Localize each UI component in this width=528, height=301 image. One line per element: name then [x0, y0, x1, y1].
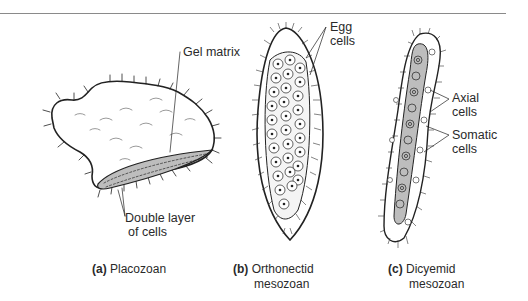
caption-a-letter: (a)	[92, 262, 107, 276]
caption-c-text: Dicyemid	[406, 262, 455, 276]
caption-b: (b) Orthonectid mesozoan	[233, 262, 314, 292]
caption-c-text-line2: mesozoan	[388, 277, 464, 292]
label-egg-line1: Egg	[330, 20, 352, 34]
label-axial-line1: Axial	[452, 91, 479, 105]
label-double-layer-line1: Double layer	[125, 211, 195, 225]
caption-a: (a) Placozoan	[92, 262, 166, 277]
caption-b-letter: (b)	[233, 262, 248, 276]
caption-b-text-line2: mesozoan	[233, 277, 314, 292]
caption-b-text: Orthonectid	[252, 262, 314, 276]
dicyemid-drawing	[378, 28, 449, 248]
caption-c: (c) Dicyemid mesozoan	[388, 262, 464, 292]
label-somatic-line1: Somatic	[452, 128, 497, 142]
caption-c-letter: (c)	[388, 262, 403, 276]
label-somatic-line2: cells	[452, 142, 477, 156]
caption-a-text: Placozoan	[110, 262, 166, 276]
orthonectid-drawing	[252, 22, 326, 240]
label-double-layer-line2: of cells	[128, 225, 167, 239]
label-axial-line2: cells	[452, 105, 477, 119]
label-gel-matrix: Gel matrix	[183, 45, 240, 59]
label-egg-line2: cells	[330, 34, 355, 48]
organism-illustrations	[0, 0, 528, 301]
placozoan-drawing	[43, 52, 221, 216]
